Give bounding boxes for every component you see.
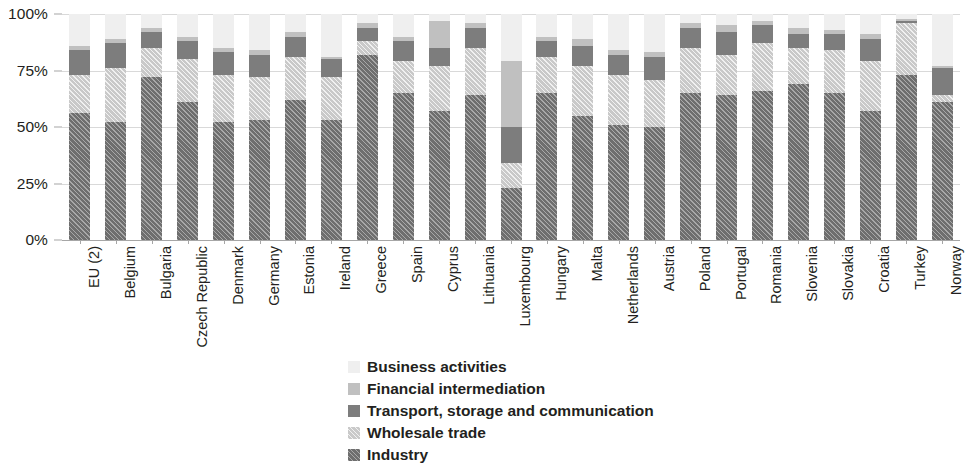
y-axis-tick-label: 25%	[17, 175, 48, 193]
bar-segment	[141, 77, 162, 240]
bar-segment	[608, 14, 629, 50]
bar-segment	[105, 14, 126, 39]
x-axis-tick-mark	[727, 240, 728, 244]
bar-segment	[608, 75, 629, 125]
legend-swatch	[348, 361, 360, 373]
y-axis-tick-label: 50%	[17, 118, 48, 136]
bar-segment	[716, 55, 737, 96]
x-axis-tick-mark	[619, 240, 620, 244]
bar-segment	[177, 14, 198, 37]
bar-group[interactable]	[105, 14, 126, 240]
bar-segment	[105, 122, 126, 240]
legend-swatch	[348, 427, 360, 439]
bar-segment	[465, 48, 486, 95]
bar-segment	[357, 14, 378, 23]
legend-item[interactable]: Business activities	[348, 357, 654, 376]
bar-group[interactable]	[572, 14, 593, 240]
bar-group[interactable]	[788, 14, 809, 240]
bar-segment	[285, 37, 306, 57]
bar-group[interactable]	[536, 14, 557, 240]
bar-segment	[824, 50, 845, 93]
bar-segment	[285, 14, 306, 32]
bar-segment	[429, 21, 450, 48]
bar-group[interactable]	[716, 14, 737, 240]
bar-group[interactable]	[824, 14, 845, 240]
bar-segment	[501, 127, 522, 163]
bar-segment	[501, 188, 522, 240]
bar-stack	[752, 14, 773, 240]
bar-stack	[465, 14, 486, 240]
bar-segment	[429, 111, 450, 240]
bar-segment	[429, 14, 450, 21]
x-axis: EU (2)BelgiumBulgariaCzech RepublicDenma…	[62, 244, 960, 348]
bar-group[interactable]	[896, 14, 917, 240]
bar-group[interactable]	[752, 14, 773, 240]
legend-swatch	[348, 383, 360, 395]
bar-segment	[752, 43, 773, 90]
bar-segment	[141, 48, 162, 77]
bar-stack	[105, 14, 126, 240]
bar-segment	[680, 14, 701, 23]
legend-item[interactable]: Transport, storage and communication	[348, 401, 654, 420]
bar-group[interactable]	[860, 14, 881, 240]
legend-item[interactable]: Financial intermediation	[348, 379, 654, 398]
bar-segment	[141, 14, 162, 28]
legend-label: Wholesale trade	[367, 424, 486, 442]
x-axis-tick-mark	[583, 240, 584, 244]
bar-group[interactable]	[393, 14, 414, 240]
bar-group[interactable]	[177, 14, 198, 240]
x-axis-tick-label: Czech Republic	[194, 246, 210, 348]
x-axis-tick-mark	[403, 240, 404, 244]
x-axis-tick-label: Spain	[409, 246, 425, 283]
x-axis-tick-mark	[367, 240, 368, 244]
bar-segment	[465, 95, 486, 240]
y-axis-tick-mark	[54, 183, 62, 184]
bar-segment	[393, 61, 414, 93]
bar-group[interactable]	[69, 14, 90, 240]
bar-group[interactable]	[608, 14, 629, 240]
x-axis-tick-mark	[295, 240, 296, 244]
bar-segment	[429, 48, 450, 66]
bar-group[interactable]	[429, 14, 450, 240]
bar-group[interactable]	[465, 14, 486, 240]
x-axis-tick-label: Hungary	[553, 246, 569, 301]
bar-segment	[501, 163, 522, 188]
bar-stack	[644, 14, 665, 240]
legend-item[interactable]: Wholesale trade	[348, 423, 654, 442]
bar-segment	[465, 28, 486, 48]
x-axis-tick-mark	[655, 240, 656, 244]
bar-stack	[141, 14, 162, 240]
bar-group[interactable]	[141, 14, 162, 240]
bar-group[interactable]	[285, 14, 306, 240]
bar-segment	[357, 41, 378, 55]
legend-item[interactable]: Industry	[348, 445, 654, 464]
bar-segment	[788, 48, 809, 84]
bar-segment	[824, 93, 845, 240]
bar-group[interactable]	[249, 14, 270, 240]
bar-segment	[716, 25, 737, 32]
x-axis-tick-mark	[152, 240, 153, 244]
bar-group[interactable]	[932, 14, 953, 240]
bar-segment	[69, 50, 90, 75]
bar-segment	[69, 14, 90, 46]
bar-stack	[860, 14, 881, 240]
x-axis-tick-mark	[762, 240, 763, 244]
bar-group[interactable]	[644, 14, 665, 240]
bar-group[interactable]	[501, 14, 522, 240]
bar-segment	[69, 113, 90, 240]
bar-segment	[393, 93, 414, 240]
bar-segment	[572, 39, 593, 46]
bar-group[interactable]	[321, 14, 342, 240]
x-axis-tick-mark	[331, 240, 332, 244]
y-axis-tick-mark	[54, 127, 62, 128]
bar-segment	[680, 28, 701, 48]
bar-group[interactable]	[680, 14, 701, 240]
bar-stack	[213, 14, 234, 240]
bar-stack	[932, 14, 953, 240]
x-axis-tick-mark	[224, 240, 225, 244]
bar-group[interactable]	[357, 14, 378, 240]
bar-series-container	[62, 14, 960, 240]
bar-group[interactable]	[213, 14, 234, 240]
bar-segment	[285, 57, 306, 100]
plot-area	[62, 14, 960, 240]
